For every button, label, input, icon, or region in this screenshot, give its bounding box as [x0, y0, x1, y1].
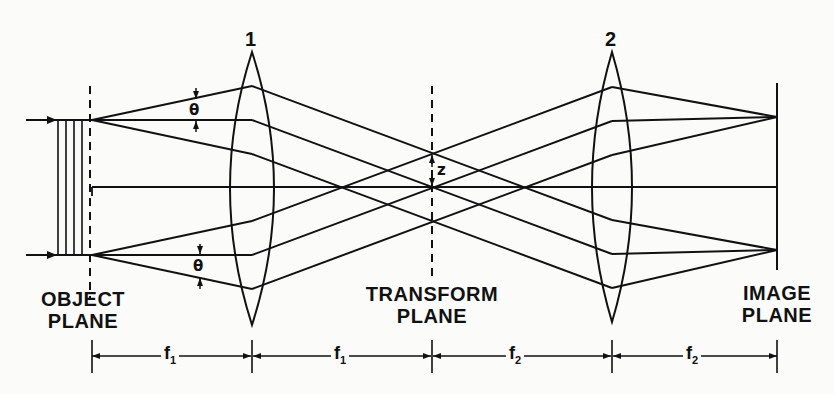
optical-diagram — [0, 0, 834, 394]
dim-subscript: 1 — [170, 354, 176, 366]
theta-top-symbol: θ — [189, 101, 199, 119]
dimension-f2-first: f2 — [506, 343, 524, 366]
transform-plane-label-line1: TRANSFORM — [352, 283, 512, 305]
dimension-f1-second: f1 — [331, 343, 349, 366]
lens-1-label: 1 — [245, 28, 256, 51]
transform-plane-label-line2: PLANE — [352, 305, 512, 327]
dim-subscript: 1 — [340, 354, 346, 366]
object-plane-label-line1: OBJECT — [18, 288, 148, 310]
lens-2-label: 2 — [605, 28, 616, 51]
dim-subscript: 2 — [692, 354, 698, 366]
object-plane-label-line2: PLANE — [18, 310, 148, 332]
dim-subscript: 2 — [515, 354, 521, 366]
dimension-f1-first: f1 — [161, 343, 179, 366]
image-plane-label-line2: PLANE — [727, 304, 827, 326]
image-plane-label-line1: IMAGE — [727, 282, 827, 304]
dimension-f2-second: f2 — [683, 343, 701, 366]
object-plane-label: OBJECT PLANE — [18, 288, 148, 332]
theta-bottom-symbol: θ — [193, 257, 203, 275]
transform-plane-label: TRANSFORM PLANE — [352, 283, 512, 327]
z-offset-symbol: z — [437, 161, 446, 179]
image-plane-label: IMAGE PLANE — [727, 282, 827, 326]
